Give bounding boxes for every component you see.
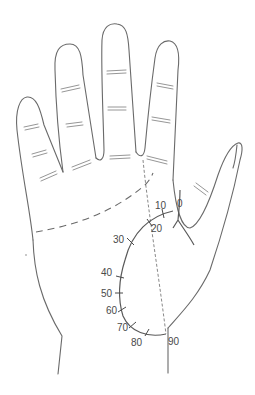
fate-line [143,160,166,334]
age-label-70: 70 [117,322,129,333]
hand-outline [17,24,242,374]
palm-diagram: 0 10 20 30 40 50 60 70 80 90 [0,0,255,395]
hand-illustration: 0 10 20 30 40 50 60 70 80 90 [0,0,255,395]
life-line [119,211,173,335]
age-label-40: 40 [101,267,113,278]
age-label-90: 90 [168,336,180,347]
age-label-20: 20 [151,223,163,234]
stray-dot [25,254,26,255]
age-label-50: 50 [101,288,113,299]
age-label-0: 0 [177,198,183,209]
age-label-30: 30 [113,234,125,245]
finger-creases [24,70,208,195]
age-label-80: 80 [131,337,143,348]
age-label-10: 10 [155,200,167,211]
age-label-60: 60 [106,305,118,316]
heart-line [36,173,153,232]
